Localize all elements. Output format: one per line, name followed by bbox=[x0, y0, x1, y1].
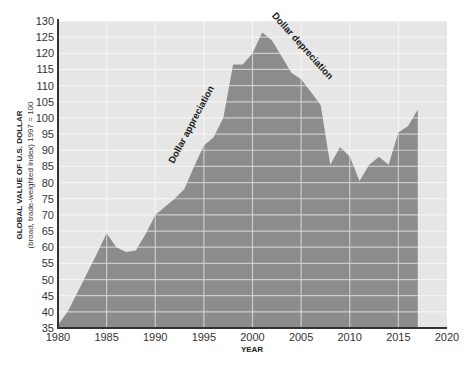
y-tick-label: 85 bbox=[42, 160, 54, 172]
x-tick-label: 2020 bbox=[435, 331, 459, 343]
y-tick-label: 65 bbox=[42, 225, 54, 237]
y-tick-label: 45 bbox=[42, 290, 54, 302]
y-tick-label: 70 bbox=[42, 209, 54, 221]
x-tick-label: 2000 bbox=[240, 331, 264, 343]
x-axis-title: YEAR bbox=[241, 345, 263, 354]
y-tick-label: 55 bbox=[42, 257, 54, 269]
y-tick-label: 110 bbox=[36, 80, 54, 92]
y-axis-subtitle: (broad, trade-weighted index) 1997 = 100 bbox=[26, 101, 35, 249]
y-tick-label: 130 bbox=[36, 15, 54, 27]
x-tick-label: 1995 bbox=[192, 331, 216, 343]
y-tick-label: 90 bbox=[42, 144, 54, 156]
y-axis-title: GLOBAL VALUE OF U.S. DOLLAR bbox=[15, 110, 24, 239]
dollar-index-chart: 3540455055606570758085909510010511011512… bbox=[0, 0, 472, 374]
y-tick-label: 75 bbox=[42, 193, 54, 205]
y-tick-label: 95 bbox=[42, 128, 54, 140]
x-tick-label: 1985 bbox=[94, 331, 118, 343]
x-tick-label: 1980 bbox=[46, 331, 70, 343]
y-tick-label: 125 bbox=[36, 31, 54, 43]
y-tick-label: 120 bbox=[36, 47, 54, 59]
y-tick-label: 50 bbox=[42, 274, 54, 286]
x-tick-label: 2015 bbox=[386, 331, 410, 343]
x-tick-label: 2005 bbox=[289, 331, 313, 343]
y-tick-label: 115 bbox=[36, 63, 54, 75]
x-tick-label: 1990 bbox=[143, 331, 167, 343]
y-tick-label: 60 bbox=[42, 241, 54, 253]
y-tick-label: 40 bbox=[42, 306, 54, 318]
y-tick-label: 100 bbox=[36, 112, 54, 124]
x-tick-label: 2010 bbox=[338, 331, 362, 343]
x-axis-ticks: 198019851990199520002005201020152020 bbox=[46, 331, 459, 343]
y-axis-ticks: 3540455055606570758085909510010511011512… bbox=[36, 15, 54, 334]
y-tick-label: 105 bbox=[36, 96, 54, 108]
y-tick-label: 80 bbox=[42, 177, 54, 189]
